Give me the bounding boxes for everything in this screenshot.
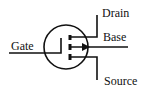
gate-label: Gate — [11, 40, 34, 52]
drain-label: Drain — [102, 7, 129, 19]
base-label: Base — [103, 31, 126, 43]
source-label: Source — [104, 75, 137, 87]
base-arrow-icon — [82, 43, 90, 51]
